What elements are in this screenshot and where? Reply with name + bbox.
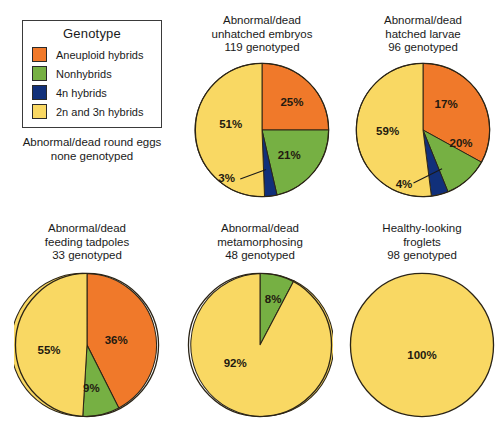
pie-svg-healthy-froglets [349, 272, 495, 418]
legend-item-nonhybrids: Nonhybrids [32, 64, 161, 83]
pie-slice-2n3n [195, 63, 265, 196]
pie-chart-figure: Genotype Aneuploid hybrids Nonhybrids 4n… [0, 0, 503, 432]
panel-title-metamorphosing: Abnormal/dead metamorphosing 48 genotype… [180, 222, 340, 263]
panel-unhatched-embryos: Abnormal/dead unhatched embryos 119 geno… [182, 14, 342, 198]
pie-healthy-froglets: 100% [349, 272, 495, 418]
legend-swatch-aneuploid-hybrids [32, 47, 47, 62]
legend-swatch-2n-3n-hybrids [32, 104, 47, 119]
legend-label-2n-3n-hybrids: 2n and 3n hybrids [56, 106, 143, 118]
pie-unhatched-embryos: 25% 21% 3% 51% [194, 62, 330, 198]
pie-slice-2n3n [14, 273, 87, 416]
genotype-legend: Genotype Aneuploid hybrids Nonhybrids 4n… [22, 20, 162, 128]
pie-svg-hatched-larvae [355, 62, 491, 198]
legend-label-4n-hybrids: 4n hybrids [56, 87, 107, 99]
legend-label-nonhybrids: Nonhybrids [56, 68, 112, 80]
panel-title-unhatched-embryos: Abnormal/dead unhatched embryos 119 geno… [182, 14, 342, 55]
legend-items: Aneuploid hybrids Nonhybrids 4n hybrids … [23, 45, 161, 121]
pie-svg-unhatched-embryos [194, 62, 330, 198]
pie-svg-metamorphosing [187, 272, 333, 418]
round-eggs-caption: Abnormal/dead round eggs none genotyped [12, 136, 172, 163]
legend-item-2n-3n-hybrids: 2n and 3n hybrids [32, 102, 161, 121]
pie-slice-2n3n [356, 63, 431, 196]
panel-healthy-froglets: Healthy-looking froglets 98 genotyped 10… [343, 222, 501, 418]
legend-swatch-4n-hybrids [32, 85, 47, 100]
pie-svg-feeding-tadpoles [14, 272, 160, 418]
panel-title-feeding-tadpoles: Abnormal/dead feeding tadpoles 33 genoty… [8, 222, 166, 263]
pie-hatched-larvae: 17% 20% 4% 59% [355, 62, 491, 198]
panel-feeding-tadpoles: Abnormal/dead feeding tadpoles 33 genoty… [8, 222, 166, 418]
legend-swatch-nonhybrids [32, 66, 47, 81]
panel-metamorphosing: Abnormal/dead metamorphosing 48 genotype… [180, 222, 340, 418]
legend-label-aneuploid-hybrids: Aneuploid hybrids [56, 49, 143, 61]
pie-slice-aneuploid [262, 63, 329, 130]
legend-item-4n-hybrids: 4n hybrids [32, 83, 161, 102]
legend-title: Genotype [23, 26, 161, 41]
pie-metamorphosing: 8% 92% [187, 272, 333, 418]
legend-item-aneuploid-hybrids: Aneuploid hybrids [32, 45, 161, 64]
panel-title-healthy-froglets: Healthy-looking froglets 98 genotyped [343, 222, 501, 263]
pie-feeding-tadpoles: 36% 9% 55% [14, 272, 160, 418]
pie-slice-2n3n [350, 273, 493, 416]
panel-title-hatched-larvae: Abnormal/dead hatched larvae 96 genotype… [345, 14, 501, 55]
panel-hatched-larvae: Abnormal/dead hatched larvae 96 genotype… [345, 14, 501, 198]
